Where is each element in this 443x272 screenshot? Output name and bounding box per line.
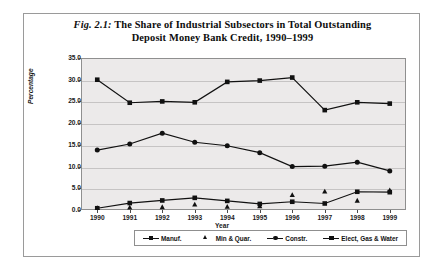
data-point <box>95 206 100 210</box>
legend-label: Constr. <box>285 235 307 242</box>
y-axis-tick-label: 20.0 <box>53 119 81 126</box>
x-axis-tick-mark <box>195 210 196 213</box>
series-line <box>97 133 390 171</box>
figure-caption: Fig. 2.1: The Share of Industrial Subsec… <box>35 18 410 44</box>
series-line <box>97 78 390 111</box>
data-point <box>127 100 132 105</box>
legend-item[interactable]: Min & Quar. <box>198 234 252 242</box>
x-axis-tick-mark <box>292 210 293 213</box>
data-point <box>192 100 197 105</box>
figure-number: Fig. 2.1: <box>74 19 112 30</box>
x-axis-tick-mark <box>260 210 261 213</box>
data-point <box>225 199 230 204</box>
data-point <box>160 198 165 203</box>
x-axis-tick-mark <box>130 210 131 213</box>
legend-label: Elect, Gas & Water <box>341 235 398 242</box>
figure-title-line1: The Share of Industrial Subsectors in To… <box>114 19 371 30</box>
data-point <box>160 204 165 209</box>
data-point <box>127 201 132 206</box>
x-axis-tick-mark <box>162 210 163 213</box>
x-axis-tick-label: 1999 <box>370 214 410 221</box>
series-min-quar <box>95 187 393 210</box>
data-point <box>290 199 295 204</box>
data-point <box>192 202 197 207</box>
chart-area: Percentage 0.05.010.015.020.025.030.035.… <box>31 52 413 252</box>
y-axis-tick-label: 30.0 <box>53 76 81 83</box>
data-point <box>257 150 262 155</box>
y-axis-tick-label: 5.0 <box>53 184 81 191</box>
data-point <box>160 131 165 136</box>
y-axis-tick-label: 35.0 <box>53 54 81 61</box>
x-axis-label: Year <box>31 222 413 229</box>
data-point <box>322 164 327 169</box>
data-point <box>322 108 327 113</box>
x-axis-tick-mark <box>357 210 358 213</box>
data-point <box>225 204 230 209</box>
data-point <box>387 190 392 195</box>
data-point <box>95 148 100 153</box>
y-axis-label: Percentage <box>27 68 34 104</box>
series-layer <box>81 58 406 210</box>
data-point <box>387 168 392 173</box>
data-point <box>225 80 230 85</box>
data-point <box>290 192 295 197</box>
data-point <box>322 189 327 194</box>
data-point <box>160 99 165 104</box>
series-line <box>97 192 390 209</box>
legend-marker-triangle-icon <box>198 234 214 242</box>
data-point <box>127 205 132 210</box>
data-point <box>355 198 360 203</box>
data-point <box>257 78 262 83</box>
y-axis-tick-label: 15.0 <box>53 141 81 148</box>
legend-item[interactable]: Manuf. <box>143 234 182 242</box>
x-axis-tick-mark <box>227 210 228 213</box>
legend-label: Min & Quar. <box>216 235 252 242</box>
series-elect-gas-water <box>95 189 392 210</box>
data-point <box>355 189 360 194</box>
legend-marker-square-icon <box>323 234 339 242</box>
data-point <box>355 160 360 165</box>
data-point <box>355 100 360 105</box>
legend-item[interactable]: Elect, Gas & Water <box>323 234 398 242</box>
x-axis-tick-mark <box>390 210 391 213</box>
legend-marker-circle-icon <box>267 234 283 242</box>
data-point <box>290 75 295 80</box>
series-constr <box>95 131 393 174</box>
x-axis-tick-mark <box>325 210 326 213</box>
legend-item[interactable]: Constr. <box>267 234 307 242</box>
y-axis-tick-label: 0.0 <box>53 206 81 213</box>
data-point <box>290 164 295 169</box>
data-point <box>387 101 392 106</box>
data-point <box>127 141 132 146</box>
y-axis-tick-label: 10.0 <box>53 163 81 170</box>
legend-label: Manuf. <box>161 235 182 242</box>
figure-title-line2: Deposit Money Bank Credit, 1990–1999 <box>132 32 314 43</box>
series-manuf <box>95 75 392 112</box>
legend-marker-square-icon <box>143 234 159 242</box>
data-point <box>322 201 327 206</box>
x-axis-tick-mark <box>97 210 98 213</box>
data-point <box>192 196 197 201</box>
data-point <box>257 202 262 207</box>
data-point <box>225 143 230 148</box>
data-point <box>192 140 197 145</box>
y-axis-tick-mark <box>78 210 81 211</box>
y-axis-tick-label: 25.0 <box>53 97 81 104</box>
data-point <box>95 77 100 82</box>
chart-legend: Manuf.Min & Quar.Constr.Elect, Gas & Wat… <box>134 230 407 246</box>
